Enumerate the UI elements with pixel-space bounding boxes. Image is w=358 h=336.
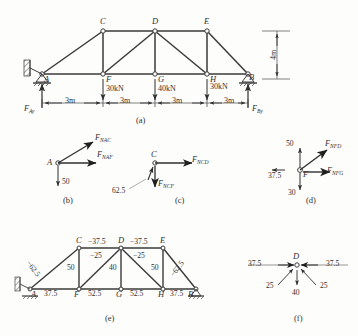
panel-e-member-gh: 52.5: [130, 290, 143, 298]
panel-a-node-b: B: [249, 73, 254, 82]
panel-a-dim-1: 3m: [65, 97, 75, 105]
panel-a-dim-4: 3m: [224, 97, 234, 105]
panel-a-load-f: 30kN: [106, 85, 124, 93]
figure-root: A B C D E F G H 30kN 40kN 30kN FAy FBy 3…: [0, 0, 358, 336]
panel-b-reaction-value: 50: [62, 178, 70, 186]
panel-d-force-nfd: FNFD: [325, 140, 341, 148]
panel-e-node-d: D: [118, 236, 124, 245]
figure-vector-layer: [0, 0, 358, 336]
panel-e-member-cf: 50: [67, 264, 75, 272]
panel-e-member-eh: 50: [151, 264, 159, 272]
panel-e-node-b: B: [188, 290, 193, 299]
panel-e-node-a: A: [31, 290, 36, 299]
panel-e-member-de: −37.5: [130, 238, 148, 246]
panel-e-node-e: E: [160, 236, 165, 245]
panel-a-node-e: E: [204, 17, 209, 26]
caption-d: (d): [306, 196, 316, 205]
caption-f: (f): [294, 314, 303, 323]
panel-f-value-diag-right: 25: [320, 282, 328, 290]
panel-c-force-ncd: FNCD: [192, 156, 209, 164]
panel-a-load-g: 40kN: [158, 85, 176, 93]
panel-f-node-d: D: [293, 252, 299, 261]
panel-a-node-c: C: [100, 17, 106, 26]
panel-e-member-hb: 37.5: [170, 290, 183, 298]
panel-c-node-c: C: [151, 150, 157, 159]
panel-a-dim-height: 4m: [270, 50, 278, 60]
panel-f-value-left: 37.5: [248, 260, 261, 268]
panel-b-force-nac: FNAC: [95, 134, 111, 142]
caption-a: (a): [136, 116, 145, 125]
panel-f-value-right: 37.5: [326, 260, 339, 268]
panel-a-dim-2: 3m: [120, 97, 130, 105]
panel-c-force-ncf: FNCF: [158, 180, 174, 188]
caption-e: (e): [105, 314, 114, 323]
panel-b-force-naf: FNAF: [97, 151, 113, 159]
caption-b: (b): [63, 196, 73, 205]
panel-e-node-h: H: [158, 290, 164, 299]
panel-d-value-up: 50: [286, 140, 294, 148]
panel-f-value-down: 40: [292, 289, 300, 297]
panel-e-member-af: 37.5: [44, 290, 57, 298]
panel-a-load-h: 30kN: [210, 83, 228, 91]
panel-d-value-down: 30: [288, 189, 296, 197]
panel-d-joint-f: [272, 148, 330, 190]
panel-e-node-c: C: [76, 236, 82, 245]
panel-a-node-f: F: [106, 75, 111, 84]
panel-a-node-a: A: [44, 75, 49, 84]
panel-c-known-value: 62.5: [112, 187, 125, 195]
panel-e-member-cd: −37.5: [88, 238, 106, 246]
panel-f-value-diag-left: 25: [266, 282, 274, 290]
panel-a-truss: [24, 29, 290, 108]
panel-e-member-dh: −25: [133, 252, 145, 260]
panel-e-member-df: −25: [90, 252, 102, 260]
panel-a-reaction-ay: FAy: [24, 105, 35, 113]
panel-a-dim-3: 3m: [172, 97, 182, 105]
panel-e-node-f: F: [74, 290, 79, 299]
panel-d-value-left: 37.5: [268, 172, 281, 180]
panel-d-node-f: F: [303, 170, 308, 179]
panel-d-force-nfg: FNFG: [327, 167, 343, 175]
panel-e-member-fg: 52.5: [88, 290, 101, 298]
panel-a-reaction-by: FBy: [252, 105, 263, 113]
caption-c: (c): [175, 196, 184, 205]
panel-a-node-g: G: [158, 75, 164, 84]
panel-a-node-d: D: [152, 17, 158, 26]
panel-e-member-dg: 40: [109, 264, 117, 272]
panel-e-node-g: G: [116, 290, 122, 299]
panel-b-node-a: A: [47, 158, 52, 167]
